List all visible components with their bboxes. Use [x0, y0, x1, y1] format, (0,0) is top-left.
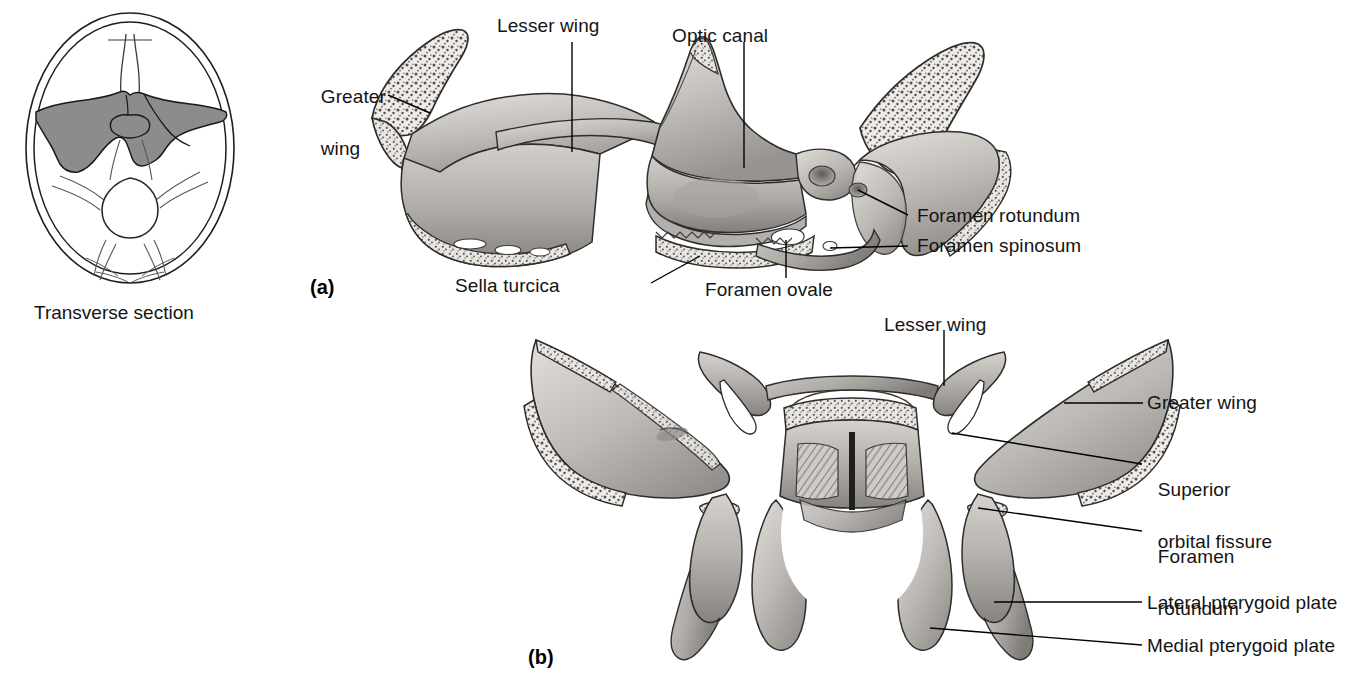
- transverse-section-caption: Transverse section: [34, 302, 194, 324]
- label-optic-canal-a: Optic canal: [672, 23, 768, 49]
- label-lesser-wing-a: Lesser wing: [497, 13, 599, 39]
- foramen-spinosum-a: [823, 242, 837, 251]
- label-greater-wing-b: Greater wing: [1147, 390, 1257, 416]
- label-foramen-rotundum-a: Foramen rotundum: [917, 203, 1080, 229]
- label-foramen-rotundum-b-line1: Foramen: [1158, 546, 1235, 567]
- label-greater-wing-a-line2: wing: [321, 138, 360, 159]
- panel-a-identifier: (a): [310, 276, 334, 299]
- label-sella-turcica-a: Sella turcica: [455, 273, 560, 299]
- label-lateral-pterygoid-plate-b: Lateral pterygoid plate: [1147, 590, 1337, 616]
- label-foramen-ovale-a: Foramen ovale: [705, 277, 833, 303]
- sphenoid-posterior-view: [524, 330, 1180, 659]
- label-medial-pterygoid-plate-b: Medial pterygoid plate: [1147, 633, 1335, 659]
- label-superior-orbital-fissure-b-line1: Superior: [1158, 479, 1231, 500]
- transverse-section-diagram: [26, 13, 234, 283]
- label-greater-wing-a: Greater wing: [310, 58, 386, 162]
- label-greater-wing-a-line1: Greater: [321, 86, 386, 107]
- sphenoid-superior-view: [372, 30, 1011, 283]
- leader-medial-pterygoid-plate-b: [930, 628, 1142, 645]
- label-lesser-wing-b: Lesser wing: [884, 312, 986, 338]
- label-foramen-spinosum-a: Foramen spinosum: [917, 233, 1081, 259]
- panel-b-identifier: (b): [528, 646, 554, 669]
